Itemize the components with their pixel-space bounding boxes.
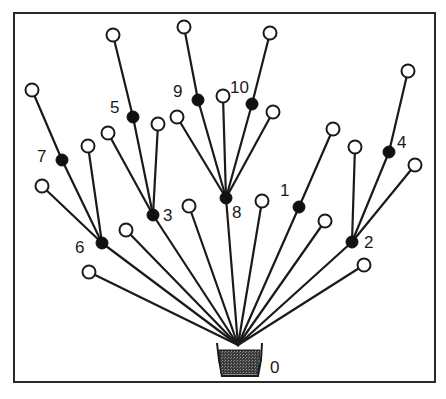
branch-node-8: [220, 192, 232, 204]
branch-node-5: [127, 111, 139, 123]
tree-diagram: 123456789100: [0, 0, 446, 399]
branch-node-9: [192, 94, 204, 106]
node-label-6: 6: [75, 238, 84, 257]
branch-node-1: [293, 201, 305, 213]
branch-node-7: [56, 154, 68, 166]
leaf-node: [26, 84, 39, 97]
leaf-node: [178, 21, 191, 34]
leaf-node: [409, 159, 422, 172]
edge: [223, 96, 226, 198]
edge: [352, 152, 389, 242]
node-label-2: 2: [364, 233, 373, 252]
root-label: 0: [270, 358, 279, 377]
edge: [42, 186, 102, 243]
edge: [102, 243, 238, 345]
edge: [108, 133, 153, 215]
pot-icon: [217, 343, 262, 376]
edge: [299, 129, 333, 207]
edge: [153, 124, 158, 215]
edge: [153, 215, 238, 345]
edge: [238, 221, 325, 345]
leaf-node: [349, 141, 362, 154]
leaf-node: [402, 65, 415, 78]
leaf-node: [327, 123, 340, 136]
node-label-3: 3: [163, 206, 172, 225]
leaf-node: [83, 266, 96, 279]
branch-node-6: [96, 237, 108, 249]
leaf-node: [171, 111, 184, 124]
edge: [352, 165, 415, 242]
node-label-9: 9: [173, 82, 182, 101]
edge: [238, 265, 364, 345]
leaf-node: [217, 90, 230, 103]
node-label-5: 5: [110, 98, 119, 117]
node-label-4: 4: [397, 133, 406, 152]
edge: [177, 117, 226, 198]
leaf-node: [183, 200, 196, 213]
leaf-node: [256, 195, 269, 208]
edge: [133, 117, 153, 215]
node-label-10: 10: [230, 78, 249, 97]
edge: [226, 104, 252, 198]
node-label-1: 1: [280, 181, 289, 200]
edges: [32, 27, 415, 345]
leaf-node: [264, 27, 277, 40]
leaf-node: [82, 140, 95, 153]
leaf-node: [36, 180, 49, 193]
diagram-canvas: 123456789100: [0, 0, 446, 399]
branch-node-10: [246, 98, 258, 110]
leaf-node: [267, 106, 280, 119]
leaf-node: [102, 127, 115, 140]
edge: [252, 33, 270, 104]
branch-node-2: [346, 236, 358, 248]
leaf-node: [120, 224, 133, 237]
edge: [126, 230, 238, 345]
node-label-8: 8: [232, 203, 241, 222]
leaf-node: [107, 29, 120, 42]
edge: [238, 201, 262, 345]
leaf-node: [319, 215, 332, 228]
leaf-node: [358, 259, 371, 272]
edge: [226, 112, 273, 198]
edge: [238, 242, 352, 345]
branch-node-4: [383, 146, 395, 158]
edge: [238, 207, 299, 345]
leaf-node: [152, 118, 165, 131]
node-label-7: 7: [37, 147, 46, 166]
branch-node-3: [147, 209, 159, 221]
edge: [184, 27, 198, 100]
edge: [352, 147, 355, 242]
edge: [198, 100, 226, 198]
